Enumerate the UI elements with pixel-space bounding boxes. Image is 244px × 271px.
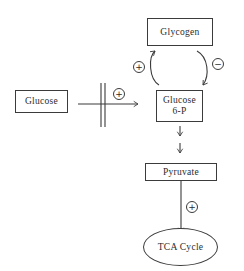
glycogen-synthesis-arrow [150,51,159,85]
glucose-6p-node: Glucose 6-P [156,90,203,122]
glycogen-breakdown-arrow [197,51,207,85]
membrane-double-line [101,83,105,127]
tca-entry-plus-sign: + [186,201,198,213]
glucose-label: Glucose [25,96,58,107]
tca-cycle-node: TCA Cycle [143,228,218,266]
glucose-node: Glucose [15,90,68,113]
glycogen-breakdown-minus-sign: − [212,58,224,70]
glycogen-label: Glycogen [160,27,199,38]
glucose-6p-label-line1: Glucose [163,95,196,106]
metabolic-pathway-diagram: Glycogen Glucose Glucose 6-P Pyruvate TC… [0,0,244,271]
glucose-uptake-plus-sign: + [113,88,125,100]
pyruvate-label: Pyruvate [163,167,199,178]
tca-cycle-label: TCA Cycle [158,242,204,253]
glucose-6p-label-line2: 6-P [172,106,186,117]
glycogen-node: Glycogen [147,18,213,46]
pyruvate-node: Pyruvate [145,163,217,181]
glycogen-synthesis-plus-sign: + [133,61,145,73]
